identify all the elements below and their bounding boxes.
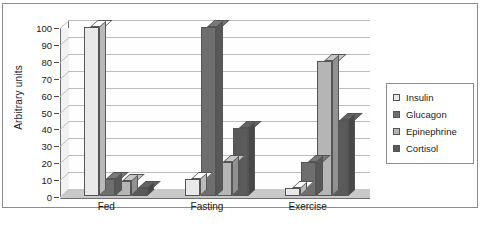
legend-item[interactable]: Glucagon <box>393 106 467 123</box>
y-tick-label: 70 <box>26 73 52 84</box>
y-tick-label: 100 <box>26 23 52 34</box>
bar-side-face <box>348 114 355 196</box>
y-tick-mark <box>54 197 59 198</box>
legend-swatch-icon <box>393 94 400 101</box>
legend-swatch-icon <box>393 145 400 152</box>
plot-area <box>60 20 370 197</box>
y-tick-label: 0 <box>26 192 52 203</box>
y-tick-label: 50 <box>26 107 52 118</box>
y-tick-mark <box>54 146 59 147</box>
legend: InsulinGlucagonEpinephrineCortisol <box>386 83 474 164</box>
y-tick-mark <box>54 96 59 97</box>
y-tick-mark <box>54 180 59 181</box>
y-axis-title: Arbitrary units <box>13 43 24 153</box>
legend-item[interactable]: Epinephrine <box>393 123 467 140</box>
x-category-label: Exercise <box>257 201 358 212</box>
y-tick-label: 80 <box>26 56 52 67</box>
figure: Arbitrary units 0102030405060708090100 F… <box>0 0 485 228</box>
y-tick-mark <box>54 62 59 63</box>
y-tick-mark <box>54 163 59 164</box>
bar-side-face <box>248 122 255 196</box>
bar-side-face <box>332 54 339 195</box>
y-tick-mark <box>54 129 59 130</box>
legend-item-label: Insulin <box>406 92 433 103</box>
bar-side-face <box>216 21 223 196</box>
legend-item-label: Epinephrine <box>406 126 457 137</box>
bar-front-face <box>84 27 99 196</box>
y-tick-mark <box>54 45 59 46</box>
y-tick-label: 30 <box>26 141 52 152</box>
chart-frame: Arbitrary units 0102030405060708090100 F… <box>2 3 478 208</box>
legend-item-label: Cortisol <box>406 143 438 154</box>
y-tick-mark <box>54 79 59 80</box>
bar-side-face <box>316 156 323 196</box>
bar <box>201 27 216 196</box>
legend-item[interactable]: Cortisol <box>393 140 467 157</box>
bar-front-face <box>185 179 200 196</box>
y-tick-label: 40 <box>26 124 52 135</box>
y-tick-label: 60 <box>26 90 52 101</box>
bar <box>285 188 300 196</box>
y-tick-mark <box>54 28 59 29</box>
legend-item[interactable]: Insulin <box>393 89 467 106</box>
y-tick-label: 20 <box>26 158 52 169</box>
bar <box>185 179 200 196</box>
bar-side-face <box>99 21 106 196</box>
legend-swatch-icon <box>393 111 400 118</box>
bar-front-face <box>201 27 216 196</box>
x-category-label: Fasting <box>157 201 258 212</box>
bar-side-face <box>232 156 239 196</box>
legend-swatch-icon <box>393 128 400 135</box>
bar <box>84 27 99 196</box>
x-category-label: Fed <box>56 201 157 212</box>
y-tick-mark <box>54 113 59 114</box>
bar-front-face <box>285 188 300 196</box>
legend-item-label: Glucagon <box>406 109 447 120</box>
y-tick-label: 90 <box>26 39 52 50</box>
y-tick-label: 10 <box>26 175 52 186</box>
